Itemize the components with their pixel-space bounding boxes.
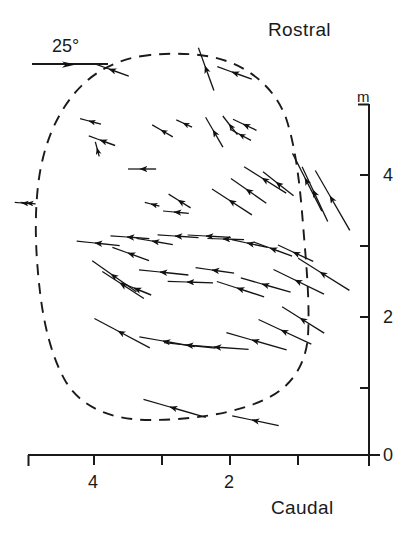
vector-arrow <box>217 282 264 297</box>
vector-arrow <box>188 345 248 349</box>
y-tick-label-2: 2 <box>383 307 393 328</box>
vector-arrow <box>259 320 312 345</box>
vector-arrow <box>102 272 144 299</box>
vector-arrow <box>152 125 173 137</box>
y-axis-unit-label: m <box>357 88 370 105</box>
y-tick-label-4: 4 <box>383 165 393 186</box>
orientation-label-rostral: Rostral <box>268 19 331 41</box>
vector-arrow <box>176 120 192 127</box>
vector-arrow <box>206 117 223 147</box>
vector-arrow <box>144 399 206 417</box>
x-tick-label-2: 2 <box>224 472 234 493</box>
vector-arrow <box>232 416 279 426</box>
vector-arrow <box>89 136 115 146</box>
vector-arrow <box>80 119 101 125</box>
vector-arrow <box>226 333 286 350</box>
vector-arrow <box>241 278 291 292</box>
vector-arrow <box>230 129 251 140</box>
vector-arrow <box>302 167 328 222</box>
vector-arrow <box>196 268 235 273</box>
vector-arrow <box>139 270 188 275</box>
vector-arrow <box>169 194 191 208</box>
vector-arrow <box>232 240 268 248</box>
vector-arrow <box>293 153 322 211</box>
vector-arrow <box>231 178 266 203</box>
x-axis <box>28 444 369 466</box>
vector-field-figure <box>0 0 416 543</box>
vector-arrow <box>112 247 149 260</box>
vector-arrow <box>92 261 136 292</box>
x-tick-label-4: 4 <box>88 472 98 493</box>
region-boundary-outline <box>36 54 309 420</box>
vector-arrow <box>168 281 213 283</box>
vector-arrow <box>137 238 173 244</box>
orientation-label-caudal: Caudal <box>271 497 334 519</box>
vector-arrow <box>207 239 244 240</box>
vector-arrow <box>282 307 324 333</box>
vector-arrow <box>77 241 120 246</box>
vector-arrow <box>198 48 214 91</box>
vector-arrow <box>233 119 257 130</box>
vector-arrow <box>212 189 252 215</box>
scale-bar <box>32 61 108 67</box>
vector-arrow <box>111 236 150 239</box>
vector-arrow <box>263 172 294 196</box>
scale-bar-label: 25° <box>52 36 79 57</box>
y-axis <box>358 104 380 456</box>
vector-arrow <box>274 270 325 295</box>
vector-arrow <box>145 202 160 206</box>
y-tick-label-0: 0 <box>383 445 393 466</box>
vector-arrow <box>217 67 252 80</box>
vector-arrow <box>163 211 189 213</box>
vector-arrow <box>94 319 149 348</box>
vector-arrow <box>315 171 350 231</box>
vector-arrow <box>95 142 99 157</box>
vector-arrow <box>244 167 286 193</box>
